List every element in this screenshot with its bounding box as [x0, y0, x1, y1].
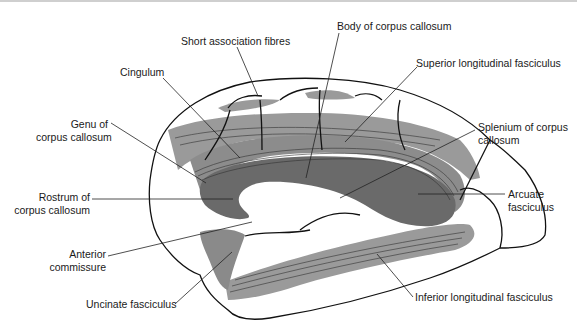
inferior-longitudinal-region — [225, 224, 474, 300]
label-inferior-longitudinal-fasciculus: Inferior longitudinal fasciculus — [415, 291, 553, 304]
leader-body-cc — [306, 33, 339, 178]
label-uncinate-fasciculus: Uncinate fasciculus — [86, 298, 176, 311]
fibre-regions — [168, 90, 480, 300]
brain-diagram — [0, 0, 577, 329]
label-cingulum: Cingulum — [120, 66, 164, 79]
short-association-region-1 — [218, 99, 280, 112]
label-anterior-commissure: Anterior commissure — [48, 248, 106, 273]
label-genu-of-corpus-callosum: Genu of corpus callosum — [36, 118, 108, 143]
label-rostrum-of-corpus-callosum: Rostrum of corpus callosum — [14, 191, 90, 216]
label-splenium-of-corpus-callosum: Splenium of corpus callosum — [478, 121, 568, 146]
label-body-of-corpus-callosum: Body of corpus callosum — [337, 20, 451, 33]
short-association-region-2 — [305, 90, 355, 99]
label-superior-longitudinal-fasciculus: Superior longitudinal fasciculus — [416, 57, 561, 70]
label-short-association-fibres: Short association fibres — [181, 35, 290, 48]
label-arcuate-fasciculus: Arcuate fasciculus — [508, 188, 554, 213]
leader-short-association — [237, 47, 258, 96]
